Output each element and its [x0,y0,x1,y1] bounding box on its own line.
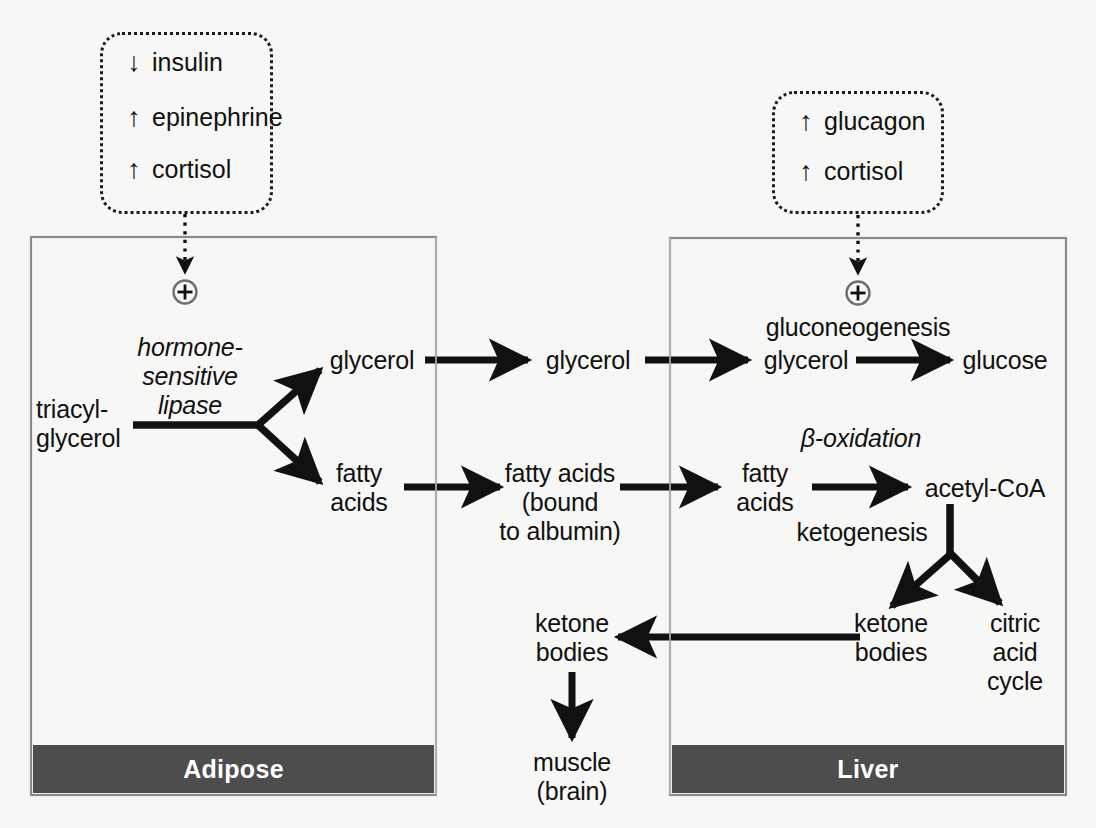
diagram-canvas: ↓ insulin ↑ epinephrine ↑ cortisol ↑ glu… [0,0,1096,828]
arrow-down-icon: ↓ [124,49,144,76]
adipose-organ-bar: Adipose [33,745,434,793]
adipose-plus-circle-icon [174,281,197,304]
hormone-row-epinephrine: ↑ epinephrine [124,103,283,132]
arrow-up-icon: ↑ [796,158,816,185]
metabolite-citric-acid-cycle: citric acid cycle [987,609,1043,696]
hormone-row-cortisol-adipose: ↑ cortisol [124,155,231,184]
label-beta-oxidation: β-oxidation [801,424,921,453]
arrow-up-icon: ↑ [796,108,816,135]
metabolite-glucose: glucose [963,346,1048,375]
hormone-row-cortisol-liver: ↑ cortisol [796,157,903,186]
hormone-label-insulin: insulin [152,48,223,77]
label-gluconeogenesis: gluconeogenesis [766,313,951,342]
liver-plus-circle-icon [847,282,870,305]
arrow-up-icon: ↑ [124,104,144,131]
metabolite-fattyacids-adipose: fatty acids [330,459,387,517]
metabolite-acetyl-coa: acetyl-CoA [925,474,1045,503]
adipose-organ-label: Adipose [183,755,284,784]
hormone-label-epinephrine: epinephrine [152,103,283,132]
metabolite-triacylglycerol: triacyl- glycerol [36,395,121,453]
hormone-label-glucagon: glucagon [824,107,925,136]
label-hormone-sensitive-lipase: hormone- sensitive lipase [137,333,242,420]
hormone-row-glucagon: ↑ glucagon [796,107,925,136]
hormone-row-insulin: ↓ insulin [124,48,223,77]
label-ketogenesis: ketogenesis [796,518,927,547]
metabolite-fattyacids-blood: fatty acids (bound to albumin) [499,459,620,546]
hormone-label-cortisol-adipose: cortisol [152,155,231,184]
liver-organ-label: Liver [837,755,898,784]
arrow-up-icon: ↑ [124,156,144,183]
metabolite-ketonebodies-blood: ketone bodies [535,609,609,667]
metabolite-ketonebodies-liver: ketone bodies [854,609,928,667]
metabolite-glycerol-blood: glycerol [546,346,631,375]
metabolite-glycerol-liver: glycerol [764,346,849,375]
metabolite-fattyacids-liver: fatty acids [736,459,793,517]
hormone-label-cortisol-liver: cortisol [824,157,903,186]
metabolite-glycerol-adipose: glycerol [330,346,415,375]
liver-organ-bar: Liver [672,745,1064,793]
metabolite-muscle-brain: muscle (brain) [533,748,611,806]
